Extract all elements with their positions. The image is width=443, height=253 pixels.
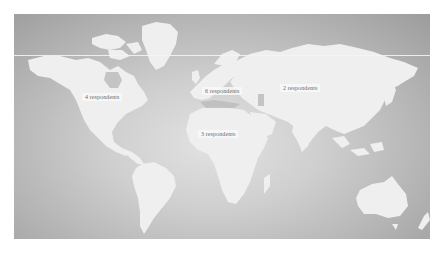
marker-label-africa[interactable]: 3 respondents xyxy=(198,130,238,138)
mediterranean-shape xyxy=(200,100,240,108)
marker-label-europe[interactable]: 6 respondents xyxy=(202,87,242,95)
marker-label-asia[interactable]: 2 respondents xyxy=(280,84,320,92)
south-america-shape xyxy=(132,162,176,234)
horizontal-rule xyxy=(14,55,430,56)
world-map: 4 respondents 6 respondents 2 respondent… xyxy=(14,14,430,239)
continents-layer xyxy=(14,14,430,239)
caspian-sea-shape xyxy=(258,94,264,106)
map-frame: 4 respondents 6 respondents 2 respondent… xyxy=(0,0,443,253)
arctic-islands-shape xyxy=(92,34,142,60)
marker-label-north-america[interactable]: 4 respondents xyxy=(82,93,122,101)
madagascar-shape xyxy=(264,174,270,194)
new-zealand-shape xyxy=(418,212,430,230)
southeast-asia-shape xyxy=(332,136,384,156)
central-america-shape xyxy=(122,148,144,164)
australia-shape xyxy=(356,176,408,218)
north-america-shape xyxy=(28,56,148,156)
tasmania-shape xyxy=(392,224,398,230)
greenland-shape xyxy=(142,22,178,70)
british-isles-shape xyxy=(192,70,200,84)
